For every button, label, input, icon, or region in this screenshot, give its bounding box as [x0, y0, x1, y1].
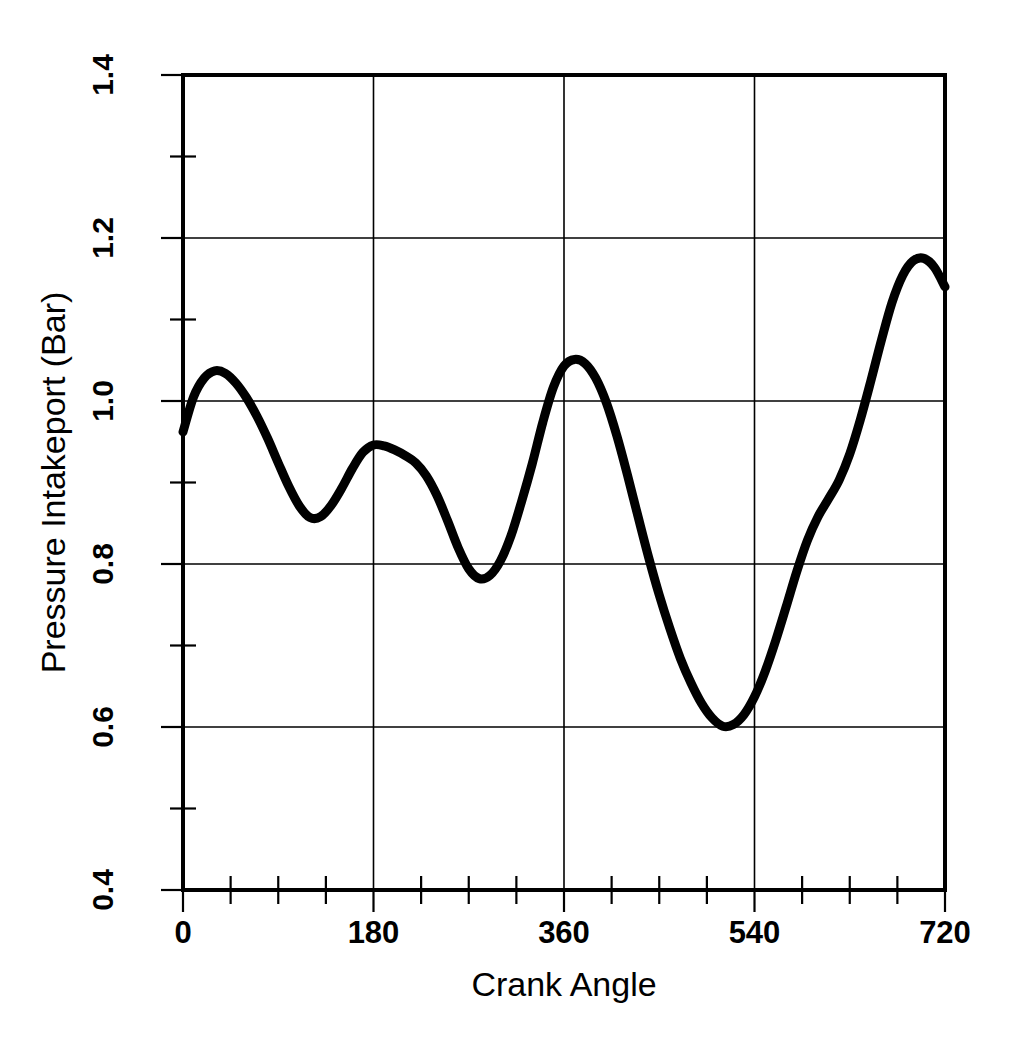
- x-tick-label: 0: [138, 915, 228, 951]
- y-tick-label: 0.8: [86, 529, 120, 599]
- y-tick-label: 1.0: [86, 366, 120, 436]
- y-tick-label: 0.6: [86, 692, 120, 762]
- chart-figure: 0.40.60.81.01.21.4 0180360540720 Pressur…: [0, 0, 1013, 1051]
- plot-area: [0, 0, 1013, 1051]
- gridlines: [183, 75, 945, 890]
- x-tick-label: 360: [519, 915, 609, 951]
- y-tick-label: 1.2: [86, 203, 120, 273]
- y-tick-label: 0.4: [86, 855, 120, 925]
- y-tick-label: 1.4: [86, 40, 120, 110]
- x-tick-label: 540: [710, 915, 800, 951]
- x-tick-label: 720: [900, 915, 990, 951]
- x-axis-title: Crank Angle: [183, 965, 945, 1004]
- x-tick-label: 180: [329, 915, 419, 951]
- y-axis-title: Pressure Intakeport (Bar): [25, 75, 81, 890]
